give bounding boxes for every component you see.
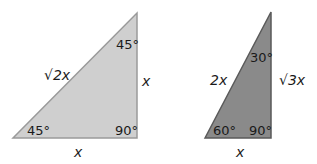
horizontal-leg-label: x [73,144,83,160]
angle-90-label: 90° [249,123,272,138]
angle-60-label: 60° [213,123,236,138]
triangle-45-shape [13,13,137,138]
angle-45-top-label: 45° [116,37,139,52]
angle-90-label: 90° [115,123,138,138]
angle-45-bottom-left-label: 45° [27,123,50,138]
triangle-45-45-90: 45° 45° 90° √2x x x [13,13,151,160]
hypotenuse-label: √2x [44,67,71,83]
hypotenuse-label: 2x [210,72,228,88]
vertical-leg-label: x [141,73,151,89]
triangle-30-60-90: 30° 60° 90° 2x √3x x [205,12,306,160]
vertical-leg-label: √3x [279,72,306,88]
special-right-triangles-diagram: 45° 45° 90° √2x x x 30° 60° 90° 2x √3x x [0,0,317,164]
angle-30-top-label: 30° [250,50,273,65]
horizontal-leg-label: x [235,144,245,160]
